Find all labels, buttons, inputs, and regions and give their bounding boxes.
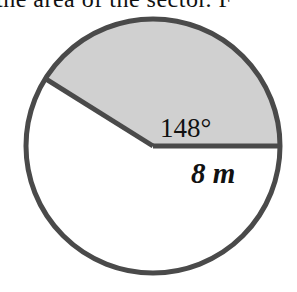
radius-label: 8 m [191,157,235,189]
angle-label: 148° [160,113,211,143]
sector-diagram: 148° 8 m [0,0,297,292]
